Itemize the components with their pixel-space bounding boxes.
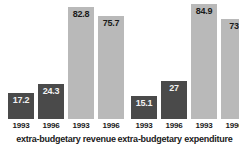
bar-value-label: 84.9 (191, 6, 217, 16)
x-tick-label: 1996 (161, 120, 187, 131)
group-label-expenditure: extra-budgetary expenditure (111, 133, 239, 145)
bar-value-label: 75.7 (98, 18, 124, 28)
chart-plot-area: 17.2 24.3 82.8 75.7 15.1 27 84.9 73 (0, 0, 239, 119)
bar-value-label: 24.3 (38, 86, 64, 96)
bar-expenditure-total-1996: 73 (221, 19, 239, 119)
bar-value-label: 15.1 (131, 98, 157, 108)
bar-value-label: 82.8 (68, 9, 94, 19)
bar-revenue-total-1996: 75.7 (98, 16, 124, 119)
bar-expenditure-1993: 15.1 (131, 96, 157, 119)
x-tick-label: 1996 (98, 120, 124, 131)
x-axis-tick-labels: 1993 1996 1993 1996 1993 1996 1993 1996 (0, 120, 239, 132)
x-tick-label: 1996 (38, 120, 64, 131)
x-tick-label: 1993 (191, 120, 217, 131)
group-category-labels: extra-budgetary revenue extra-budgetary … (0, 133, 239, 147)
x-tick-label: 1993 (131, 120, 157, 131)
grouped-bar-chart: 17.2 24.3 82.8 75.7 15.1 27 84.9 73 1993… (0, 0, 239, 148)
bar-revenue-1993: 17.2 (8, 93, 34, 119)
bar-value-label: 73 (221, 21, 239, 31)
bar-expenditure-total-1993: 84.9 (191, 4, 217, 119)
bar-revenue-1996: 24.3 (38, 84, 64, 119)
bar-value-label: 27 (161, 83, 187, 93)
bar-expenditure-1996: 27 (161, 81, 187, 119)
bar-revenue-total-1993: 82.8 (68, 7, 94, 119)
x-tick-label: 1996 (221, 120, 239, 131)
x-tick-label: 1993 (68, 120, 94, 131)
bar-value-label: 17.2 (8, 95, 34, 105)
x-tick-label: 1993 (8, 120, 34, 131)
